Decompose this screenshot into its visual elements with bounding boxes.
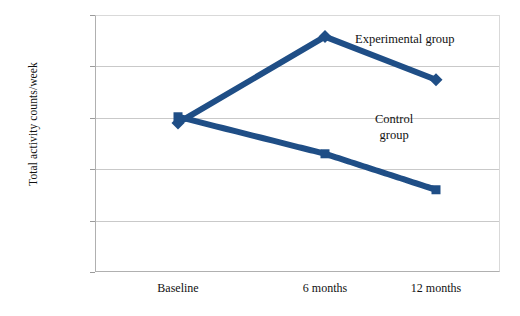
x-tick-label: 12 months [411, 281, 461, 296]
gridline [96, 221, 499, 222]
gridline [96, 118, 499, 119]
y-tick-mark [90, 118, 95, 119]
y-tick-mark [90, 66, 95, 67]
line-chart: Total activity counts/week 4000000350000… [0, 0, 520, 316]
series-annotation-control: Control group [375, 112, 413, 143]
gridline [96, 169, 499, 170]
x-tick-label: Baseline [157, 281, 198, 296]
y-tick-mark [90, 221, 95, 222]
y-tick-mark [90, 169, 95, 170]
y-tick-mark [90, 272, 95, 273]
plot-area [95, 15, 500, 272]
gridline [96, 66, 499, 67]
y-axis-title: Total activity counts/week [27, 0, 39, 249]
x-tick-label: 6 months [303, 281, 347, 296]
y-tick-mark [90, 15, 95, 16]
series-annotation-experimental: Experimental group [355, 32, 455, 48]
